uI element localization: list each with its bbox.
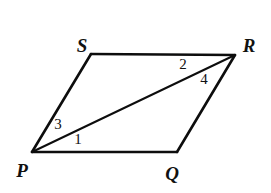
vertex-label-Q: Q <box>165 164 179 183</box>
angle-label-1: 1 <box>74 132 82 147</box>
angle-label-3: 3 <box>54 117 62 132</box>
geometry-figure: P Q R S 1 2 3 4 <box>0 0 271 193</box>
vertex-label-R: R <box>243 36 256 55</box>
figure-canvas <box>0 0 271 193</box>
vertex-label-P: P <box>16 161 28 180</box>
angle-label-4: 4 <box>200 72 208 87</box>
vertex-label-S: S <box>77 36 88 55</box>
edge-RS <box>91 54 235 55</box>
angle-label-2: 2 <box>179 57 187 72</box>
